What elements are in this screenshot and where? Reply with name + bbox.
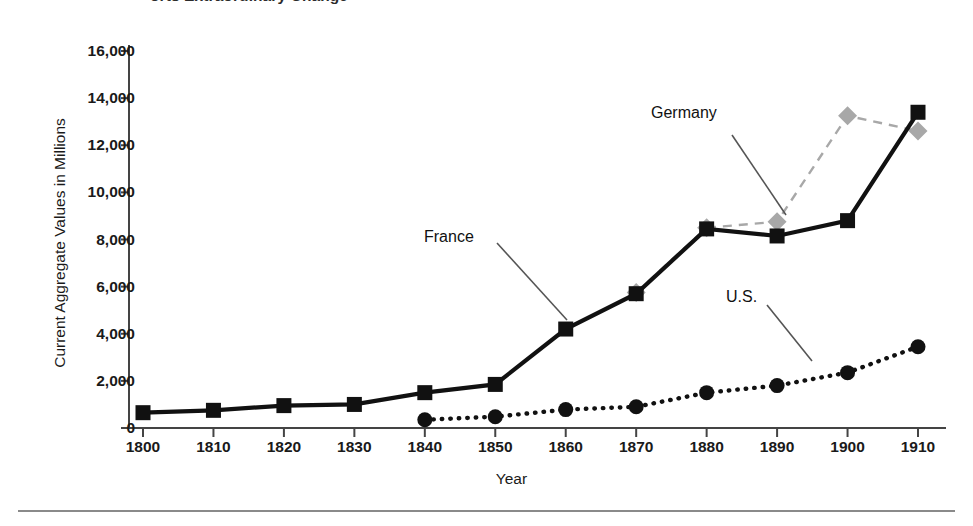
marker-square xyxy=(488,377,503,392)
x-tick-label: 1910 xyxy=(883,438,953,456)
x-axis-label: Year xyxy=(0,470,973,488)
y-tick-label: 10,000 xyxy=(45,183,135,201)
marker-circle xyxy=(911,339,926,354)
y-tick-label: 4,000 xyxy=(45,325,135,343)
chart-title: orts Extraordinary Change xyxy=(150,0,650,5)
marker-circle xyxy=(417,412,432,427)
annotation-leader-line xyxy=(732,135,786,215)
y-tick-label: 8,000 xyxy=(45,231,135,249)
x-tick-label: 1840 xyxy=(390,438,460,456)
x-tick-label: 1890 xyxy=(742,438,812,456)
y-tick-label: 6,000 xyxy=(45,278,135,296)
marker-square xyxy=(276,398,291,413)
marker-square xyxy=(840,213,855,228)
series-label-france: France xyxy=(424,228,474,246)
x-tick-label: 1860 xyxy=(531,438,601,456)
x-tick-label: 1830 xyxy=(319,438,389,456)
x-tick-label: 1850 xyxy=(460,438,530,456)
x-tick-label: 1870 xyxy=(601,438,671,456)
marker-square xyxy=(911,105,926,120)
marker-square xyxy=(699,221,714,236)
marker-square xyxy=(558,322,573,337)
marker-circle xyxy=(770,378,785,393)
marker-square xyxy=(417,385,432,400)
series-label-us: U.S. xyxy=(726,288,757,306)
marker-circle xyxy=(699,385,714,400)
chart-figure: orts Extraordinary Change Current Aggreg… xyxy=(0,0,973,526)
y-tick-label: 16,000 xyxy=(45,42,135,60)
x-tick-label: 1810 xyxy=(178,438,248,456)
annotation-leader-line xyxy=(497,243,567,320)
marker-square xyxy=(347,397,362,412)
x-tick-label: 1800 xyxy=(108,438,178,456)
y-tick-label: 0 xyxy=(45,419,135,437)
marker-circle xyxy=(840,365,855,380)
footer-divider xyxy=(18,510,955,512)
series-line-germany xyxy=(636,116,918,293)
y-tick-label: 14,000 xyxy=(45,89,135,107)
series-line-france xyxy=(143,112,918,412)
x-axis-label-text: Year xyxy=(496,470,527,487)
marker-circle xyxy=(558,402,573,417)
marker-circle xyxy=(488,409,503,424)
marker-square xyxy=(206,403,221,418)
x-tick-label: 1880 xyxy=(672,438,742,456)
x-tick-label: 1820 xyxy=(249,438,319,456)
marker-circle xyxy=(629,399,644,414)
x-tick-label: 1900 xyxy=(813,438,883,456)
marker-square xyxy=(629,286,644,301)
series-label-germany: Germany xyxy=(651,104,717,122)
marker-square xyxy=(136,405,151,420)
annotation-leader-line xyxy=(767,305,812,361)
y-tick-label: 12,000 xyxy=(45,136,135,154)
marker-diamond xyxy=(838,106,857,125)
y-tick-label: 2,000 xyxy=(45,372,135,390)
marker-square xyxy=(770,228,785,243)
